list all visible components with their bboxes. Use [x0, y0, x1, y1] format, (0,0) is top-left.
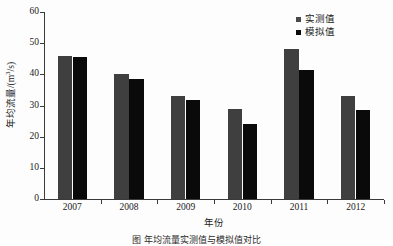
bar-模拟值-2008 [129, 79, 144, 199]
bar-实测值-2011 [284, 49, 299, 199]
y-tick-mark [40, 199, 44, 200]
plot-area: 0102030405060 200720082009201020112012 [44, 12, 384, 200]
x-tick-label: 2010 [233, 203, 252, 213]
legend-label-simulated: 模拟值 [305, 26, 335, 39]
y-tick-label: 50 [30, 38, 40, 48]
bar-实测值-2007 [58, 56, 73, 199]
x-axis-title: 年份 [44, 215, 384, 229]
x-tick-mark [327, 200, 328, 204]
x-tick-mark [157, 200, 158, 204]
x-tick-label: 2011 [290, 203, 309, 213]
y-tick-mark [40, 74, 44, 75]
y-tick-label: 0 [34, 194, 39, 204]
bar-实测值-2010 [228, 109, 243, 199]
y-tick-label: 10 [30, 163, 40, 173]
legend-swatch-simulated-icon [296, 30, 301, 35]
legend: 实测值 模拟值 [296, 13, 335, 39]
x-tick-label: 2009 [176, 203, 195, 213]
y-tick-mark [40, 106, 44, 107]
y-axis-line [44, 12, 45, 200]
legend-item-simulated: 模拟值 [296, 26, 335, 39]
figure-caption: 图 年均流量实测值与模拟值对比 [0, 233, 393, 246]
bar-模拟值-2010 [243, 124, 258, 199]
bar-模拟值-2011 [299, 70, 314, 199]
x-tick-mark [271, 200, 272, 204]
y-tick-mark [40, 137, 44, 138]
x-tick-mark [101, 200, 102, 204]
y-tick-label: 60 [30, 7, 40, 17]
y-tick-mark [40, 168, 44, 169]
y-axis-title-head: 年均流量/(m [6, 75, 16, 128]
y-tick-mark [40, 43, 44, 44]
bar-模拟值-2012 [356, 110, 371, 199]
x-tick-mark [214, 200, 215, 204]
y-axis-title: 年均流量/(m3/s) [3, 35, 17, 155]
legend-swatch-measured-icon [296, 17, 301, 22]
y-tick-label: 20 [30, 132, 40, 142]
bar-实测值-2012 [341, 96, 356, 199]
legend-label-measured: 实测值 [305, 13, 335, 26]
x-tick-label: 2008 [120, 203, 139, 213]
y-axis-title-tail: /s) [6, 62, 16, 72]
x-tick-label: 2012 [346, 203, 365, 213]
bar-模拟值-2007 [73, 57, 88, 199]
bar-实测值-2008 [114, 74, 129, 199]
legend-item-measured: 实测值 [296, 13, 335, 26]
x-tick-label: 2007 [63, 203, 82, 213]
bar-实测值-2009 [171, 96, 186, 199]
y-tick-label: 30 [30, 101, 40, 111]
bar-模拟值-2009 [186, 100, 201, 199]
y-axis-title-exponent: 3 [4, 71, 12, 75]
y-tick-label: 40 [30, 70, 40, 80]
x-tick-mark [384, 200, 385, 204]
y-tick-mark [40, 12, 44, 13]
